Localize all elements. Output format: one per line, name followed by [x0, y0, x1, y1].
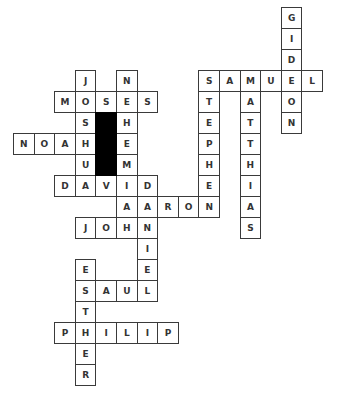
crossword-cell-r4-c5[interactable]: E [116, 91, 138, 113]
crossword-cell-r5-c13[interactable]: N [281, 112, 303, 134]
crossword-cell-r10-c3[interactable]: J [75, 217, 97, 239]
crossword-cell-r6-c0[interactable]: N [13, 133, 35, 155]
crossword-cell-r5-c3[interactable]: S [75, 112, 97, 134]
crossword-cell-r4-c2[interactable]: M [54, 91, 76, 113]
crossword-cell-r13-c4[interactable]: A [95, 280, 117, 302]
crossword-cell-r5-c11[interactable]: T [240, 112, 262, 134]
crossword-cell-r7-c5[interactable]: M [116, 154, 138, 176]
crossword-cell-r16-c3[interactable]: E [75, 343, 97, 365]
crossword-cell-r7-c3[interactable]: U [75, 154, 97, 176]
crossword-cell-r13-c6[interactable]: L [137, 280, 159, 302]
crossword-cell-r3-c13[interactable]: E [281, 70, 303, 92]
crossword-cell-r1-c13[interactable]: I [281, 28, 303, 50]
crossword-cell-r9-c5[interactable]: A [116, 196, 138, 218]
crossword-cell-r9-c6[interactable]: A [137, 196, 159, 218]
crossword-cell-r15-c4[interactable]: I [95, 322, 117, 344]
crossword-cell-r11-c6[interactable]: I [137, 238, 159, 260]
crossword-cell-r7-c11[interactable]: H [240, 154, 262, 176]
crossword-block-cell [95, 112, 117, 134]
crossword-cell-r6-c1[interactable]: O [34, 133, 56, 155]
crossword-cell-r2-c13[interactable]: D [281, 49, 303, 71]
crossword-cell-r8-c6[interactable]: D [137, 175, 159, 197]
crossword-cell-r5-c9[interactable]: E [198, 112, 220, 134]
crossword-cell-r10-c5[interactable]: H [116, 217, 138, 239]
crossword-cell-r8-c3[interactable]: A [75, 175, 97, 197]
crossword-cell-r3-c14[interactable]: L [301, 70, 323, 92]
crossword-cell-r13-c3[interactable]: S [75, 280, 97, 302]
crossword-cell-r3-c11[interactable]: M [240, 70, 262, 92]
crossword-cell-r17-c3[interactable]: R [75, 364, 97, 386]
crossword-cell-r6-c3[interactable]: H [75, 133, 97, 155]
crossword-cell-r9-c7[interactable]: R [157, 196, 179, 218]
crossword-cell-r9-c8[interactable]: O [178, 196, 200, 218]
crossword-cell-r5-c5[interactable]: H [116, 112, 138, 134]
crossword-cell-r8-c4[interactable]: V [95, 175, 117, 197]
crossword-cell-r4-c4[interactable]: S [95, 91, 117, 113]
crossword-cell-r15-c7[interactable]: P [157, 322, 179, 344]
crossword-cell-r8-c11[interactable]: I [240, 175, 262, 197]
crossword-cell-r3-c12[interactable]: U [260, 70, 282, 92]
crossword-cell-r6-c11[interactable]: T [240, 133, 262, 155]
crossword-cell-r13-c5[interactable]: U [116, 280, 138, 302]
crossword-cell-r15-c6[interactable]: I [137, 322, 159, 344]
crossword-cell-r3-c3[interactable]: J [75, 70, 97, 92]
crossword-cell-r15-c5[interactable]: L [116, 322, 138, 344]
crossword-cell-r10-c6[interactable]: N [137, 217, 159, 239]
crossword-cell-r8-c9[interactable]: E [198, 175, 220, 197]
crossword-cell-r8-c5[interactable]: I [116, 175, 138, 197]
crossword-cell-r3-c9[interactable]: S [198, 70, 220, 92]
crossword-cell-r3-c5[interactable]: N [116, 70, 138, 92]
crossword-cell-r10-c11[interactable]: S [240, 217, 262, 239]
crossword-cell-r7-c9[interactable]: H [198, 154, 220, 176]
crossword-cell-r9-c9[interactable]: N [198, 196, 220, 218]
crossword-cell-r3-c10[interactable]: A [219, 70, 241, 92]
crossword-cell-r8-c2[interactable]: D [54, 175, 76, 197]
crossword-cell-r0-c13[interactable]: G [281, 7, 303, 29]
crossword-cell-r4-c3[interactable]: O [75, 91, 97, 113]
crossword-cell-r9-c11[interactable]: A [240, 196, 262, 218]
crossword-cell-r4-c11[interactable]: A [240, 91, 262, 113]
crossword-cell-r10-c4[interactable]: O [95, 217, 117, 239]
crossword-block-cell [95, 133, 117, 155]
crossword-cell-r4-c6[interactable]: S [137, 91, 159, 113]
crossword-cell-r15-c3[interactable]: H [75, 322, 97, 344]
crossword-cell-r4-c9[interactable]: T [198, 91, 220, 113]
crossword-cell-r6-c9[interactable]: P [198, 133, 220, 155]
crossword-cell-r15-c2[interactable]: P [54, 322, 76, 344]
crossword-cell-r12-c3[interactable]: E [75, 259, 97, 281]
crossword-cell-r6-c2[interactable]: A [54, 133, 76, 155]
crossword-cell-r12-c6[interactable]: E [137, 259, 159, 281]
crossword-block-cell [95, 154, 117, 176]
crossword-cell-r4-c13[interactable]: O [281, 91, 303, 113]
crossword-grid: GIDEONSAMULTEPHENATTHIASJOSHUANEHEMIAHMS… [0, 0, 337, 394]
crossword-cell-r14-c3[interactable]: T [75, 301, 97, 323]
crossword-cell-r6-c5[interactable]: E [116, 133, 138, 155]
